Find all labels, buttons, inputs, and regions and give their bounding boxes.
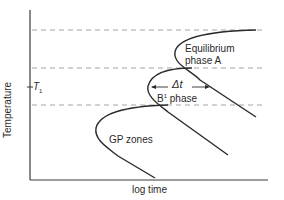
equilibrium-label-line1: Equilibrium xyxy=(185,43,234,55)
b-prime-label: B1 phase xyxy=(157,93,197,104)
b-prime-symbol: B xyxy=(157,93,164,104)
t1-subscript: 1 xyxy=(39,88,42,94)
curve-b-prime xyxy=(148,68,228,155)
gp-zones-label: GP zones xyxy=(109,135,153,145)
equilibrium-label-line2: phase A xyxy=(185,55,234,67)
x-axis-label: log time xyxy=(132,185,167,195)
equilibrium-label: Equilibrium phase A xyxy=(185,43,234,67)
y-axis-label: Temperature xyxy=(3,82,13,138)
t1-marker-label: T1 xyxy=(33,82,42,94)
delta-t-label: Δt xyxy=(172,79,182,90)
diagram-canvas xyxy=(0,0,284,200)
delta-t-arrowhead-left xyxy=(151,85,156,89)
b-prime-suffix: phase xyxy=(167,93,197,104)
